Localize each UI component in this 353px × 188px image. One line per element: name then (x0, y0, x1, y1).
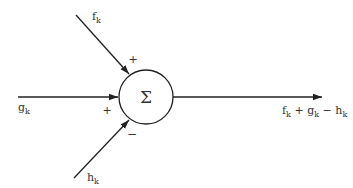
summing-junction-diagram: Σ fk gk hk + + − fk + gk − hk (0, 0, 353, 188)
sigma-symbol: Σ (140, 87, 152, 107)
output-label: fk + gk − hk (282, 104, 347, 119)
sign-f: + (128, 53, 137, 66)
input-g-label: gk (18, 101, 30, 116)
diagram-canvas: Σ fk gk hk + + − fk + gk − hk (0, 0, 353, 188)
input-f-arrow (76, 15, 129, 74)
sign-g: + (102, 104, 111, 117)
input-h-label: hk (87, 171, 99, 186)
sign-h: − (127, 127, 137, 141)
input-h-arrow (74, 120, 129, 178)
input-f-label: fk (92, 10, 101, 25)
